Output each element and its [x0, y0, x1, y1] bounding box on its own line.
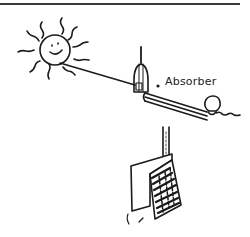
sun-icon	[18, 18, 89, 79]
absorber-label: Absorber	[165, 75, 216, 88]
absorber-icon	[134, 47, 159, 92]
diagram-canvas	[0, 0, 250, 237]
panel-icon	[127, 154, 181, 224]
sun-ray-line	[60, 63, 135, 85]
tilted-pipe	[144, 93, 208, 120]
bulb-icon	[205, 96, 240, 116]
